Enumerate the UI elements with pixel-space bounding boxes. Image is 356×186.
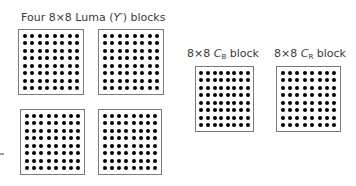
- sample-dot: [30, 79, 34, 83]
- sample-dot: [60, 71, 64, 75]
- sample-dot: [76, 166, 80, 170]
- sample-dot: [30, 49, 34, 53]
- sample-dot: [213, 93, 217, 97]
- sample-dot: [213, 108, 217, 112]
- sample-dot: [76, 129, 80, 133]
- sample-dot: [325, 93, 329, 97]
- sample-dot: [103, 34, 107, 38]
- sample-dot: [54, 114, 58, 118]
- sample-dot: [124, 136, 128, 140]
- sample-dot: [75, 34, 79, 38]
- sample-dot: [23, 71, 27, 75]
- sample-dot: [155, 56, 159, 60]
- sample-dot: [76, 151, 80, 155]
- sample-dot: [47, 159, 51, 163]
- sample-dot: [117, 144, 121, 148]
- sample-dot: [25, 151, 29, 155]
- sample-dot: [239, 78, 243, 82]
- sample-dot: [206, 71, 210, 75]
- sample-dot: [155, 49, 159, 53]
- sample-dot: [32, 166, 36, 170]
- sample-dot: [303, 71, 307, 75]
- sample-dot: [69, 159, 73, 163]
- sample-dot: [30, 56, 34, 60]
- sample-dot: [132, 151, 136, 155]
- sample-dot: [62, 136, 66, 140]
- sample-dot: [199, 108, 203, 112]
- sample-dot: [39, 136, 43, 140]
- sample-dot: [132, 129, 136, 133]
- sample-dot: [23, 64, 27, 68]
- sample-dot: [146, 159, 150, 163]
- sample-dot: [103, 71, 107, 75]
- sample-dot: [110, 41, 114, 45]
- sample-dot: [124, 151, 128, 155]
- sample-dot: [281, 86, 285, 90]
- sample-dot: [213, 78, 217, 82]
- sample-dot: [39, 114, 43, 118]
- sample-dot: [133, 34, 137, 38]
- sample-dot: [246, 86, 250, 90]
- sample-dot: [139, 144, 143, 148]
- sample-dot: [232, 93, 236, 97]
- sample-dot: [295, 123, 299, 127]
- cr-label-prefix: 8×8: [274, 47, 301, 60]
- sample-dot: [295, 78, 299, 82]
- sample-dot: [110, 86, 114, 90]
- sample-dot: [139, 166, 143, 170]
- sample-dot: [68, 49, 72, 53]
- sample-dot: [132, 159, 136, 163]
- sample-dot: [219, 101, 223, 105]
- sample-dot: [39, 159, 43, 163]
- sample-dot: [117, 159, 121, 163]
- sample-dot: [239, 123, 243, 127]
- sample-dot: [199, 101, 203, 105]
- sample-dot: [68, 86, 72, 90]
- sample-dot: [76, 136, 80, 140]
- sample-dot: [118, 41, 122, 45]
- sample-dot: [23, 79, 27, 83]
- sample-dot: [213, 86, 217, 90]
- sample-dot: [332, 123, 336, 127]
- sample-dot: [62, 129, 66, 133]
- sample-dot: [38, 64, 42, 68]
- sample-dot: [30, 64, 34, 68]
- sample-dot: [213, 71, 217, 75]
- cb-label-prefix: 8×8: [187, 47, 214, 60]
- sample-dot: [39, 121, 43, 125]
- sample-dot: [303, 78, 307, 82]
- cb-block-label: 8×8 CB block: [187, 47, 259, 64]
- sample-dot: [117, 166, 121, 170]
- sample-dot: [23, 49, 27, 53]
- sample-dot: [38, 56, 42, 60]
- sample-dot: [132, 114, 136, 118]
- sample-dot: [25, 159, 29, 163]
- sample-dot: [332, 93, 336, 97]
- sample-dot: [53, 41, 57, 45]
- sample-dot: [132, 121, 136, 125]
- sample-dot: [226, 123, 230, 127]
- sample-dot: [103, 49, 107, 53]
- sample-dot: [47, 151, 51, 155]
- sample-dot: [146, 121, 150, 125]
- sample-dot: [125, 64, 129, 68]
- sample-dot: [318, 101, 322, 105]
- sample-dot: [148, 64, 152, 68]
- sample-dot: [303, 116, 307, 120]
- sample-dot: [213, 116, 217, 120]
- sample-dot: [110, 114, 114, 118]
- sample-dot: [239, 86, 243, 90]
- sample-dot: [54, 129, 58, 133]
- sample-dot: [68, 79, 72, 83]
- sample-dot: [132, 144, 136, 148]
- sample-dot: [53, 64, 57, 68]
- sample-dot: [148, 49, 152, 53]
- sample-dot: [23, 34, 27, 38]
- sample-dot: [118, 49, 122, 53]
- sample-dot: [69, 151, 73, 155]
- sample-dot: [281, 116, 285, 120]
- sample-dot: [153, 136, 157, 140]
- sample-dot: [125, 34, 129, 38]
- sample-dot: [125, 41, 129, 45]
- sample-dot: [125, 79, 129, 83]
